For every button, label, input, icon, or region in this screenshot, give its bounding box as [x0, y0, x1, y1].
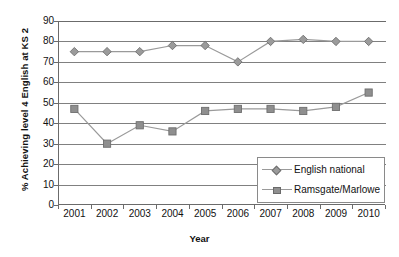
- y-tick-mark: [54, 103, 58, 104]
- legend-label: English national: [292, 165, 365, 175]
- y-tick-label: 40: [28, 118, 54, 128]
- y-tick-label: 30: [28, 139, 54, 149]
- square-marker-icon: [262, 183, 292, 197]
- line-chart: % Achieving level 4 English at KS 2 90 8…: [0, 0, 399, 257]
- x-tick-label: 2010: [349, 209, 389, 219]
- y-tick-label: 50: [28, 98, 54, 108]
- legend-item-ramsgate-marlowe[interactable]: Ramsgate/Marlowe: [262, 180, 380, 200]
- gridline-50: [59, 103, 386, 104]
- y-tick-mark: [54, 185, 58, 186]
- y-tick-label: 70: [28, 57, 54, 67]
- gridline-80: [59, 41, 386, 42]
- y-tick-label: 0: [28, 200, 54, 210]
- y-tick-mark: [54, 123, 58, 124]
- y-tick-mark: [54, 41, 58, 42]
- y-tick-mark: [54, 144, 58, 145]
- gridline-30: [59, 144, 386, 145]
- gridline-90: [59, 21, 386, 22]
- y-tick-mark: [54, 62, 58, 63]
- legend-label: Ramsgate/Marlowe: [292, 185, 380, 195]
- gridline-60: [59, 82, 386, 83]
- legend-item-english-national[interactable]: English national: [262, 160, 365, 180]
- gridline-70: [59, 62, 386, 63]
- y-tick-label: 60: [28, 77, 54, 87]
- y-tick-mark: [54, 21, 58, 22]
- diamond-marker-icon: [262, 163, 292, 177]
- y-tick-label: 10: [28, 180, 54, 190]
- y-tick-label: 90: [28, 16, 54, 26]
- gridline-40: [59, 123, 386, 124]
- y-tick-label: 20: [28, 159, 54, 169]
- x-axis-title: Year: [0, 233, 399, 244]
- legend: English national Ramsgate/Marlowe: [257, 157, 385, 203]
- y-tick-mark: [54, 164, 58, 165]
- y-tick-label: 80: [28, 36, 54, 46]
- y-tick-mark: [54, 82, 58, 83]
